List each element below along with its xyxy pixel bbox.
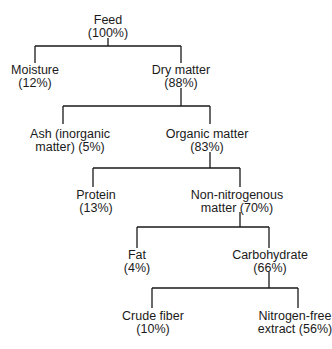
node-percent: (88%) — [152, 77, 210, 90]
node-percent: (83%) — [166, 141, 249, 154]
node-percent: (4%) — [124, 262, 150, 275]
node-fat: Fat (4%) — [124, 249, 150, 275]
node-percent: (100%) — [88, 27, 128, 40]
node-protein: Protein (13%) — [76, 189, 116, 215]
node-percent: (10%) — [122, 323, 184, 336]
node-percent: matter) (5%) — [30, 141, 110, 154]
node-dry-matter: Dry matter (88%) — [152, 64, 210, 90]
node-moisture: Moisture (12%) — [11, 64, 59, 90]
node-percent: (12%) — [11, 77, 59, 90]
node-crude-fiber: Crude fiber (10%) — [122, 310, 184, 336]
node-organic-matter: Organic matter (83%) — [166, 128, 249, 154]
node-non-nitrogenous: Non-nitrogenous matter (70%) — [191, 189, 283, 215]
node-percent: (66%) — [232, 262, 308, 275]
node-feed: Feed (100%) — [88, 14, 128, 40]
node-percent: (13%) — [76, 202, 116, 215]
node-carbohydrate: Carbohydrate (66%) — [232, 249, 308, 275]
node-nitrogen-free-extract: Nitrogen-free extract (56%) — [258, 310, 332, 336]
node-percent: matter (70%) — [191, 202, 283, 215]
node-percent: extract (56%) — [258, 323, 332, 336]
node-ash: Ash (inorganic matter) (5%) — [30, 128, 110, 154]
